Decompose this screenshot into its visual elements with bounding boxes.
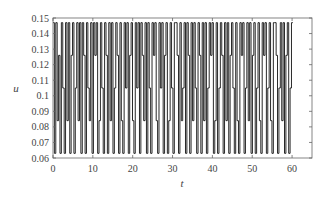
- x-tick-label: 60: [287, 163, 297, 174]
- y-tick-label: 0.07: [32, 137, 50, 148]
- y-tick-label: 0.11: [32, 75, 49, 86]
- y-tick-label: 0.12: [32, 59, 50, 70]
- x-tick-label: 50: [247, 163, 257, 174]
- y-tick-label: 0.14: [32, 28, 50, 39]
- x-tick-label: 30: [168, 163, 178, 174]
- x-axis-label: t: [180, 177, 184, 189]
- series-line: [53, 23, 293, 154]
- y-tick-label: 0.13: [32, 44, 50, 55]
- y-tick-label: 0.08: [32, 121, 50, 132]
- x-tick-label: 40: [207, 163, 217, 174]
- x-tick-label: 10: [88, 163, 98, 174]
- y-tick-label: 0.09: [32, 106, 50, 117]
- x-tick-label: 20: [128, 163, 138, 174]
- plot-area: [53, 23, 293, 154]
- y-tick-label: 0.06: [32, 153, 50, 164]
- y-axis-label: u: [13, 82, 19, 94]
- chart: 0102030405060 0.060.070.080.090.10.110.1…: [0, 0, 326, 197]
- y-tick-label: 0.1: [37, 90, 50, 101]
- y-tick-label: 0.15: [32, 13, 50, 24]
- x-tick-label: 0: [51, 163, 56, 174]
